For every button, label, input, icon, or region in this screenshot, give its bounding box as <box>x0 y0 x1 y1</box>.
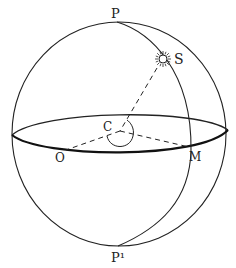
label-meridian-point: M <box>189 150 201 164</box>
celestial-sphere-diagram: P S C O M P¹ <box>0 0 236 268</box>
label-observer: O <box>55 151 65 165</box>
line-c-to-m <box>120 131 189 147</box>
equator-back <box>12 115 228 135</box>
sun-icon <box>155 51 171 67</box>
line-c-to-s <box>120 68 157 131</box>
label-star: S <box>174 51 184 67</box>
label-south-pole: P¹ <box>111 250 125 265</box>
sphere-outline <box>12 22 226 246</box>
label-center: C <box>103 120 112 134</box>
label-north-pole: P <box>111 6 120 21</box>
